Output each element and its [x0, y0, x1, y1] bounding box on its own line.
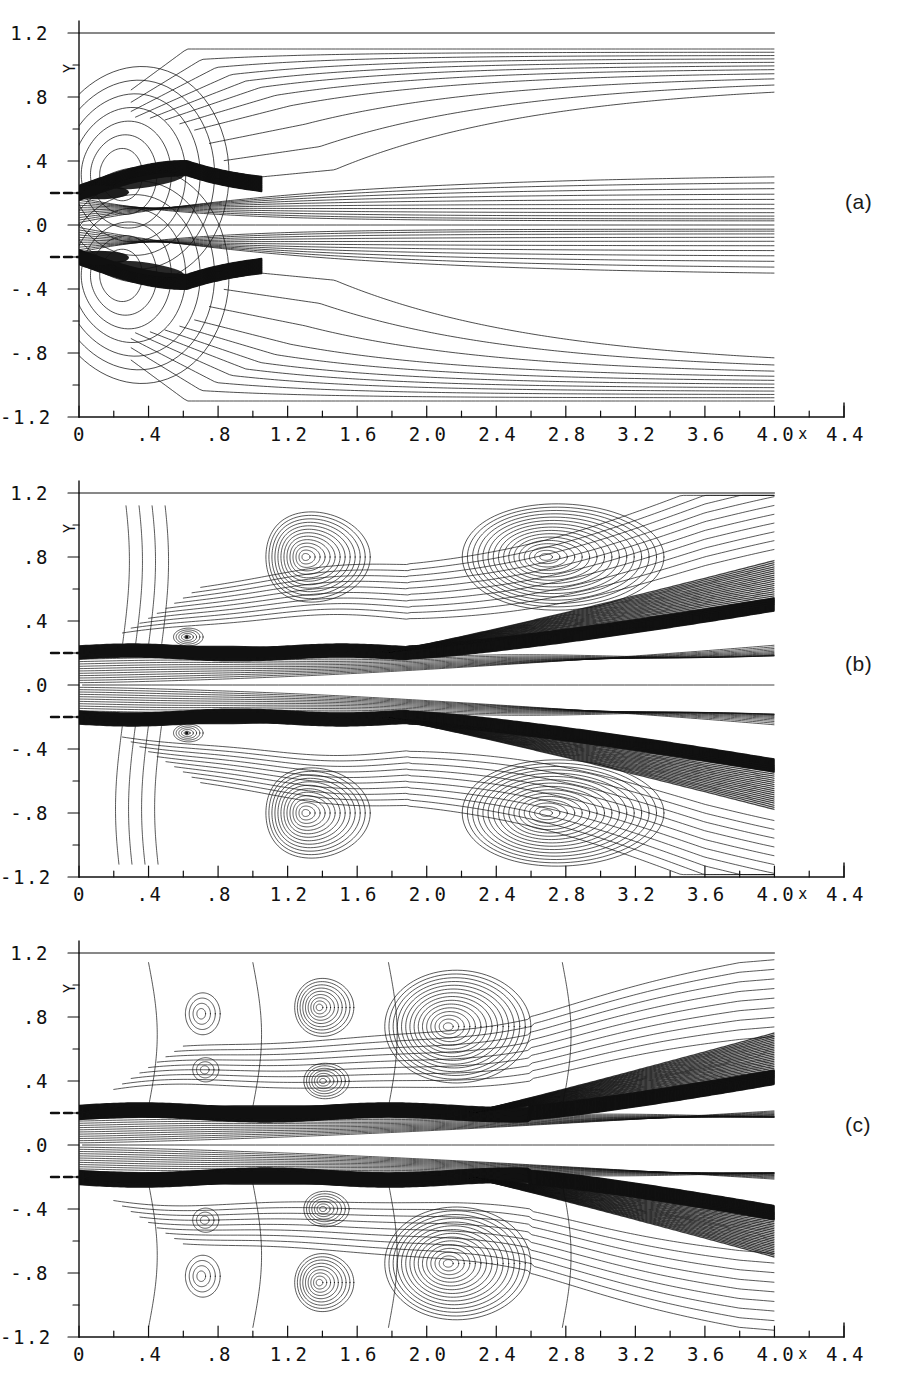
x-tick-label: .8	[206, 883, 232, 905]
y-tick-label: 1.2	[0, 942, 49, 964]
y-axis-label: Y	[61, 524, 79, 533]
x-tick-label: 4.0	[756, 883, 795, 905]
contour-plot-a	[0, 0, 903, 460]
x-axis-label: x	[798, 1345, 807, 1363]
x-tick-label: 4.0	[756, 1343, 795, 1365]
x-tick-label: 2.0	[409, 423, 448, 445]
x-tick-label: 2.8	[548, 883, 587, 905]
x-tick-label: 3.6	[687, 423, 726, 445]
x-tick-label: 1.2	[270, 1343, 309, 1365]
y-tick-label: -.4	[0, 738, 49, 760]
panel-a	[0, 0, 903, 460]
panel-c	[0, 920, 903, 1380]
x-tick-label: 3.6	[687, 1343, 726, 1365]
panel-label-a: (a)	[845, 190, 872, 214]
y-tick-label: .0	[0, 674, 49, 696]
y-tick-label: .0	[0, 1134, 49, 1156]
x-axis-label: x	[798, 425, 807, 443]
x-tick-label: 0	[73, 423, 86, 445]
x-tick-label: 3.2	[617, 883, 656, 905]
x-tick-label: .4	[137, 1343, 163, 1365]
y-tick-label: -1.2	[0, 866, 49, 888]
x-tick-label: .8	[206, 1343, 232, 1365]
x-tick-label: 2.8	[548, 1343, 587, 1365]
x-tick-label: .8	[206, 423, 232, 445]
x-axis-label: x	[798, 885, 807, 903]
x-tick-label: .4	[137, 423, 163, 445]
x-tick-label: 4.4	[826, 883, 865, 905]
x-tick-label: 4.4	[826, 1343, 865, 1365]
y-tick-label: .8	[0, 86, 49, 108]
figure-root: (a) (b) (c) 0.4.81.21.62.02.42.83.23.64.…	[0, 0, 903, 1381]
y-tick-label: -.4	[0, 278, 49, 300]
y-tick-label: -.8	[0, 1262, 49, 1284]
y-tick-label: .8	[0, 1006, 49, 1028]
x-tick-label: 2.4	[478, 423, 517, 445]
y-tick-label: .8	[0, 546, 49, 568]
x-tick-label: 2.4	[478, 1343, 517, 1365]
y-tick-label: 1.2	[0, 482, 49, 504]
y-tick-label: .0	[0, 214, 49, 236]
y-tick-label: -.8	[0, 802, 49, 824]
y-tick-label: -1.2	[0, 406, 49, 428]
x-tick-label: 3.6	[687, 883, 726, 905]
x-tick-label: 2.8	[548, 423, 587, 445]
x-tick-label: 3.2	[617, 423, 656, 445]
y-axis-label: Y	[61, 984, 79, 993]
x-tick-label: .4	[137, 883, 163, 905]
x-tick-label: 1.6	[339, 883, 378, 905]
x-tick-label: 0	[73, 883, 86, 905]
y-tick-label: -.4	[0, 1198, 49, 1220]
x-tick-label: 2.0	[409, 883, 448, 905]
panel-label-c: (c)	[845, 1113, 871, 1137]
y-tick-label: .4	[0, 1070, 49, 1092]
x-tick-label: 1.6	[339, 1343, 378, 1365]
x-tick-label: 2.0	[409, 1343, 448, 1365]
x-tick-label: 0	[73, 1343, 86, 1365]
x-tick-label: 3.2	[617, 1343, 656, 1365]
x-tick-label: 2.4	[478, 883, 517, 905]
y-tick-label: -1.2	[0, 1326, 49, 1348]
y-tick-label: 1.2	[0, 22, 49, 44]
x-tick-label: 1.2	[270, 883, 309, 905]
x-tick-label: 1.2	[270, 423, 309, 445]
x-tick-label: 4.0	[756, 423, 795, 445]
x-tick-label: 1.6	[339, 423, 378, 445]
y-tick-label: .4	[0, 150, 49, 172]
x-tick-label: 4.4	[826, 423, 865, 445]
y-axis-label: Y	[61, 64, 79, 73]
panel-label-b: (b)	[845, 652, 872, 676]
contour-plot-b	[0, 460, 903, 920]
contour-plot-c	[0, 920, 903, 1380]
y-tick-label: -.8	[0, 342, 49, 364]
panel-b	[0, 460, 903, 920]
y-tick-label: .4	[0, 610, 49, 632]
